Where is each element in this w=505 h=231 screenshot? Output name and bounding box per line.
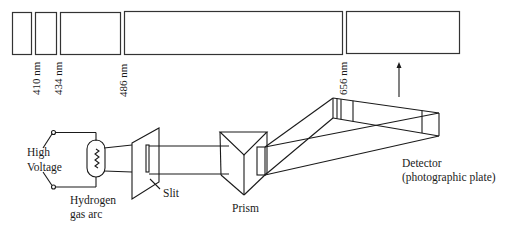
- hydrogen-label-line1: Hydrogen: [70, 194, 116, 207]
- plate-segment-5: [347, 12, 460, 54]
- hydrogen-label-line2: gas arc: [70, 208, 102, 221]
- hydrogen-arc-tube: [87, 140, 105, 177]
- high-voltage-circuit: [43, 131, 96, 190]
- prism-label: Prism: [232, 202, 259, 214]
- photographic-plate-strip: [13, 12, 460, 55]
- wavelength-label-656: 656 nm: [337, 61, 349, 95]
- detector-label-line2: (photographic plate): [402, 171, 496, 184]
- high-voltage-label-line2: Voltage: [27, 161, 62, 174]
- plate-segment-3: [61, 13, 121, 55]
- plate-segment-1: [13, 13, 32, 55]
- plate-segment-2: [36, 13, 57, 55]
- slit-label: Slit: [163, 187, 180, 199]
- spectroscope-diagram: 410 nm 434 nm 486 nm 656 nm High Voltage…: [0, 0, 505, 231]
- plate-segment-4: [125, 12, 343, 55]
- wavelength-label-410: 410 nm: [30, 61, 42, 95]
- wavelength-label-434: 434 nm: [52, 61, 64, 95]
- high-voltage-label-line1: High: [27, 146, 50, 159]
- detector-label-line1: Detector: [402, 157, 442, 169]
- prism: [220, 132, 267, 195]
- slit-plate: [132, 128, 160, 199]
- wavelength-label-486: 486 nm: [117, 63, 129, 97]
- arrow-up-icon: [397, 62, 402, 97]
